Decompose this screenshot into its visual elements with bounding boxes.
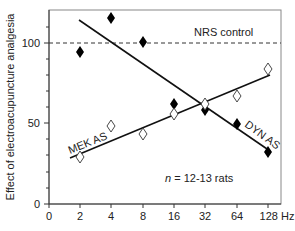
- x-tick-label-128: 128 Hz: [260, 210, 295, 222]
- y-ticks: [44, 27, 49, 204]
- data-point: [139, 128, 147, 140]
- x-tick-label-16: 16: [168, 210, 180, 222]
- sample-size-annotation: n = 12-13 rats: [165, 172, 234, 184]
- y-tick-label-50: 50: [28, 117, 40, 129]
- mek-as-trend-line: [70, 75, 270, 158]
- data-point: [170, 108, 178, 120]
- x-tick-label-0: 0: [46, 210, 52, 222]
- chart: 0 50 100 Effect of electroacupuncture an…: [0, 0, 295, 231]
- data-point: [264, 63, 272, 75]
- mek-as-label: MEK AS: [66, 129, 108, 155]
- nrs-control-label: NRS control: [194, 26, 253, 38]
- data-point: [76, 46, 84, 58]
- mek-as-points: [76, 63, 272, 163]
- data-point: [233, 90, 241, 102]
- x-tick-label-32: 32: [199, 210, 211, 222]
- x-ticks: [49, 204, 268, 208]
- dyn-as-trend-line: [79, 20, 270, 151]
- x-tick-label-64: 64: [231, 210, 243, 222]
- x-tick-label-4: 4: [108, 210, 114, 222]
- x-tick-label-2: 2: [77, 210, 83, 222]
- data-point: [139, 36, 147, 48]
- y-tick-label-0: 0: [34, 198, 40, 210]
- data-point: [107, 120, 115, 132]
- y-axis-label: Effect of electroacupuncture analgesia: [4, 13, 16, 201]
- data-point: [107, 12, 115, 24]
- data-point: [233, 118, 241, 130]
- y-tick-label-100: 100: [22, 37, 40, 49]
- x-tick-label-8: 8: [140, 210, 146, 222]
